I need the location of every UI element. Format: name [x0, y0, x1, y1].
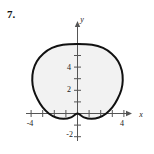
x-axis-arrowhead	[126, 111, 132, 116]
figure-container: 7. -4 4 4 2 -2 y x	[0, 0, 154, 154]
y-tick-label-neg2: -2	[66, 130, 73, 139]
x-axis-label: x	[138, 110, 143, 119]
y-tick-label-4: 4	[67, 63, 71, 72]
x-tick-label-4: 4	[120, 119, 124, 128]
cardioid-plot: -4 4 4 2 -2 y x	[0, 0, 154, 154]
x-tick-label-neg4: -4	[27, 119, 34, 128]
y-axis-label: y	[79, 15, 84, 24]
y-tick-label-2: 2	[67, 85, 71, 94]
